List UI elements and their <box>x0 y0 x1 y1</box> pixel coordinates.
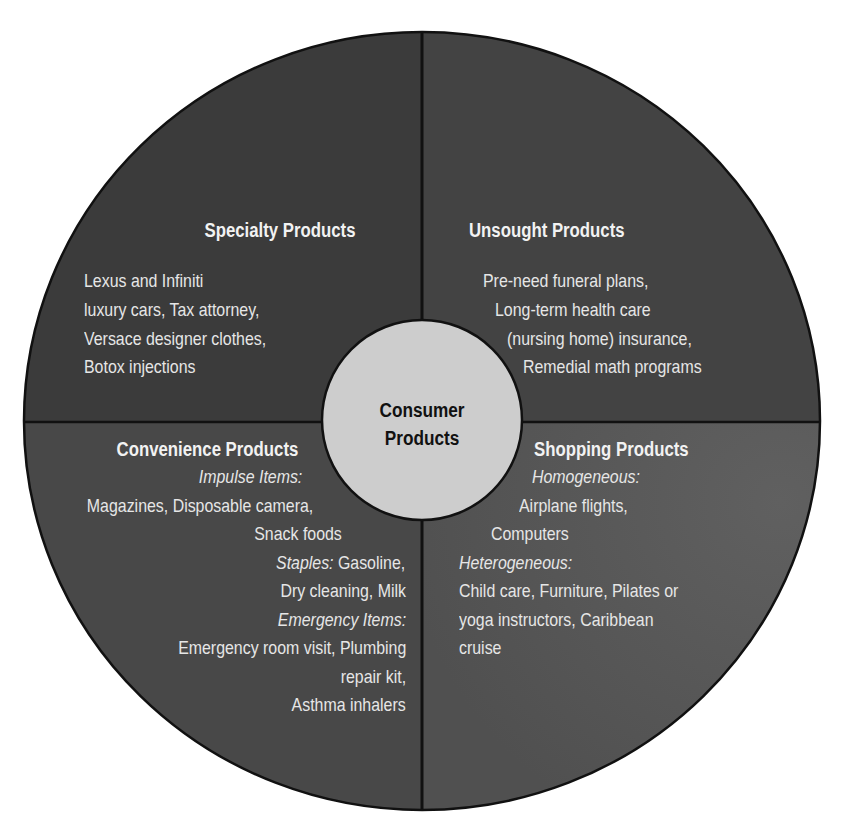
unsought-line: Remedial math programs <box>523 358 702 377</box>
shopping-homogeneous-line: Airplane flights, <box>519 497 628 516</box>
convenience-impulse-label: Impulse Items: <box>199 468 302 487</box>
unsought-line: (nursing home) insurance, <box>507 330 692 349</box>
shopping-heterogeneous-label: Heterogeneous: <box>459 554 572 573</box>
shopping-heterogeneous-line: yoga instructors, Caribbean <box>459 611 654 630</box>
specialty-line: Lexus and Infiniti <box>84 272 203 291</box>
convenience-impulse-line: Snack foods <box>254 525 342 544</box>
center-label-line1: Consumer <box>336 400 508 420</box>
convenience-staples-value: Gasoline, <box>338 552 405 573</box>
convenience-emergency-line: Emergency room visit, Plumbing <box>178 639 406 658</box>
convenience-impulse-line: Magazines, Disposable camera, <box>87 497 313 516</box>
convenience-emergency-label: Emergency Items: <box>278 611 406 630</box>
convenience-title: Convenience Products <box>116 440 298 460</box>
specialty-line: luxury cars, Tax attorney, <box>84 301 259 320</box>
shopping-homogeneous-line: Computers <box>491 525 569 544</box>
specialty-line: Versace designer clothes, <box>84 330 266 349</box>
shopping-title: Shopping Products <box>534 440 689 460</box>
convenience-emergency-line: repair kit, <box>341 668 406 687</box>
unsought-line: Pre-need funeral plans, <box>483 272 648 291</box>
specialty-title: Specialty Products <box>194 221 366 241</box>
unsought-title: Unsought Products <box>469 221 625 241</box>
center-label-line2: Products <box>336 428 508 448</box>
shopping-heterogeneous-line: cruise <box>459 639 501 658</box>
unsought-line: Long-term health care <box>495 301 651 320</box>
convenience-staples-line: Dry cleaning, Milk <box>280 582 406 601</box>
shopping-heterogeneous-line: Child care, Furniture, Pilates or <box>459 582 678 601</box>
specialty-line: Botox injections <box>84 358 195 377</box>
shopping-homogeneous-label: Homogeneous: <box>532 468 640 487</box>
convenience-staples-label: Staples: <box>276 552 333 573</box>
convenience-staples-row: Staples: Gasoline, <box>276 554 405 573</box>
convenience-emergency-line: Asthma inhalers <box>292 696 406 715</box>
